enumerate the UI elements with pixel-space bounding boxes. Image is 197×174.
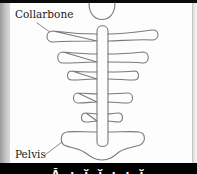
collarbone-label: Collarbone — [15, 8, 73, 20]
rib-bone — [58, 52, 149, 63]
head-outline — [89, 3, 115, 20]
collarbone-bone — [47, 30, 158, 42]
pelvis-leader-line — [45, 142, 62, 155]
pelvis-bone — [61, 132, 144, 160]
cut-off-caption-text: Ă ɩ ĭ ĭ ɩ ɩ ĭ — [0, 168, 197, 174]
spine-bone — [97, 26, 108, 147]
collarbone-leader-line — [37, 23, 50, 32]
rib-bone — [68, 71, 139, 80]
pelvis-label: Pelvis — [15, 148, 46, 160]
rib-bone — [74, 93, 133, 103]
rib-bone — [82, 113, 123, 122]
